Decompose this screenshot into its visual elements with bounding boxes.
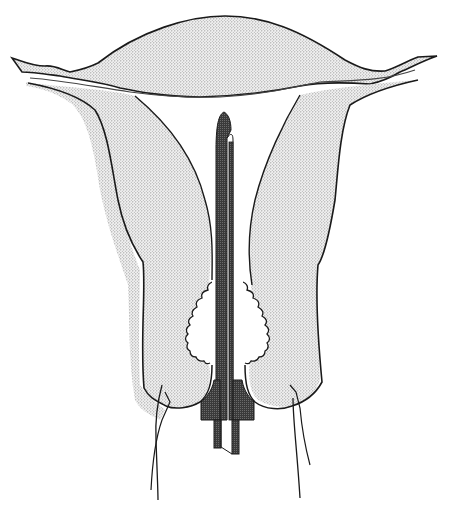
right-uterine-wall bbox=[249, 80, 418, 407]
uterus-catheter-illustration bbox=[0, 0, 455, 524]
